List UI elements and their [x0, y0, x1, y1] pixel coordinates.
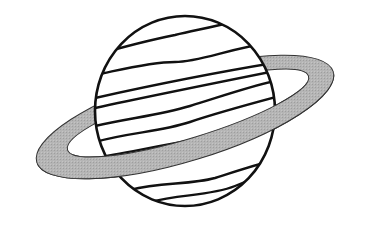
planet-illustration: planet with ring (Saturn) line drawing	[0, 0, 365, 240]
saturn-drawing	[0, 0, 365, 240]
